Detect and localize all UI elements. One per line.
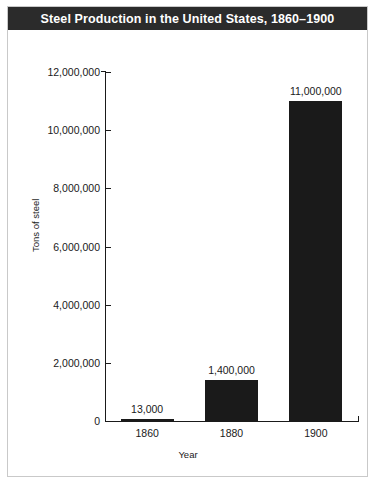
- bar-value-label-1900: 11,000,000: [290, 85, 342, 97]
- y-axis-tick-label: 4,000,000: [4, 299, 100, 311]
- x-axis-tick-label-1860: 1860: [135, 427, 158, 439]
- y-axis-tick-label: 12,000,000: [4, 66, 100, 78]
- x-axis-title: Year: [0, 449, 376, 460]
- y-axis-tick: [106, 305, 111, 306]
- chart-figure: Steel Production in the United States, 1…: [0, 0, 376, 484]
- y-axis-tick-label: 0: [4, 415, 100, 427]
- bar-1900[interactable]: [289, 101, 342, 421]
- y-axis-tick-label: 2,000,000: [4, 357, 100, 369]
- y-axis-title: Tons of steel: [30, 199, 41, 252]
- y-axis-tick-label: 8,000,000: [4, 182, 100, 194]
- x-axis-tick-label-1900: 1900: [304, 427, 327, 439]
- bar-value-label-1880: 1,400,000: [208, 364, 255, 376]
- bar-1880[interactable]: [205, 380, 258, 421]
- x-axis-tick-label-1880: 1880: [220, 427, 243, 439]
- x-axis-line: [105, 421, 359, 422]
- y-axis-tick: [106, 363, 111, 364]
- y-axis-tick: [106, 247, 111, 248]
- y-axis-tick-label: 6,000,000: [4, 241, 100, 253]
- x-axis-end-cap: [358, 416, 359, 422]
- y-axis-tick: [106, 130, 111, 131]
- y-axis-tick-labels: 02,000,0004,000,0006,000,0008,000,00010,…: [0, 0, 100, 484]
- y-axis-tick-label: 10,000,000: [4, 124, 100, 136]
- bar-1860[interactable]: [121, 419, 174, 421]
- y-axis-tick: [106, 72, 111, 73]
- bar-value-label-1860: 13,000: [131, 403, 163, 415]
- y-axis-tick: [106, 188, 111, 189]
